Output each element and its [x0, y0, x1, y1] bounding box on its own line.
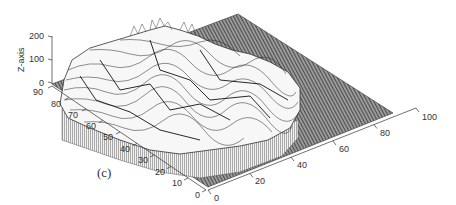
y-tick-30: 30	[138, 155, 148, 165]
x-tick-80: 80	[380, 128, 390, 138]
y-tick-10: 10	[172, 178, 182, 188]
x-tick-60: 60	[339, 144, 349, 154]
z-tick-100: 100	[29, 54, 44, 64]
z-tick-200: 200	[29, 31, 44, 41]
y-tick-90: 90	[33, 87, 43, 97]
y-tick-70: 70	[68, 110, 78, 120]
z-axis-label: Z-axis	[16, 47, 26, 72]
x-tick-40: 40	[297, 160, 307, 170]
z-axis	[48, 36, 52, 84]
y-tick-50: 50	[103, 132, 113, 142]
y-tick-80: 80	[51, 99, 61, 109]
y-tick-60: 60	[86, 121, 96, 131]
y-tick-0: 0	[195, 190, 200, 200]
x-tick-100: 100	[422, 112, 437, 122]
y-tick-40: 40	[120, 144, 130, 154]
x-tick-20: 20	[255, 176, 265, 186]
y-tick-20: 20	[155, 167, 165, 177]
panel-label: (c)	[97, 165, 111, 180]
x-tick-0: 0	[214, 193, 219, 203]
surface-plot: 200 100 0 Z-axis 90 80 70 60 50 40 30 20…	[0, 0, 456, 205]
